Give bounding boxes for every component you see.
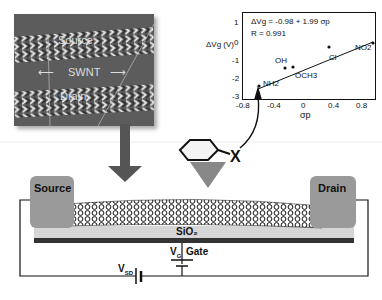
- drain-label: Drain: [318, 182, 346, 194]
- source-electrode: Source: [30, 176, 74, 228]
- substituent-x: X: [230, 148, 241, 166]
- drain-electrode: Drain: [310, 176, 356, 228]
- vsd-label: VSD: [118, 263, 133, 276]
- source-label: Source: [34, 182, 71, 194]
- sio2-label: SiO₂: [176, 226, 198, 237]
- gate-label: Gate: [186, 246, 208, 257]
- vg-label: VG: [170, 246, 181, 259]
